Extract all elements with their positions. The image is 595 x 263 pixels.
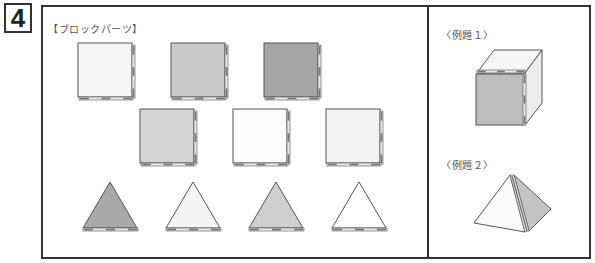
right-hinge [287,111,290,164]
bottom-hinge [265,97,319,100]
bottom-hinge [79,97,133,100]
triangle-part-3 [248,181,310,235]
triangle-part-2 [165,181,227,235]
bottom-hinge [166,228,221,231]
right-hinge [194,111,197,164]
bottom-hinge [332,228,387,231]
right-hinge [132,45,135,98]
bottom-hinge [172,97,226,100]
example2-pyramid [470,170,560,240]
cube-front-face [476,74,524,125]
square-part-row1-2 [170,42,230,102]
question-number-box: 4 [4,3,32,33]
triangle-face [332,182,386,228]
right-hinge [225,45,228,98]
cube-top-hinge [477,70,525,73]
cube-side-hinge [523,74,526,125]
square-face [326,109,380,163]
triangle-face [166,182,220,228]
triangle-part-1 [82,181,144,235]
square-part-row1-3 [263,42,323,102]
question-number: 4 [11,5,25,31]
square-face [264,43,318,97]
section-divider [427,5,429,259]
triangle-face [83,182,137,228]
right-hinge [380,111,383,164]
square-part-row2-1 [139,108,199,168]
square-face [140,109,194,163]
right-hinge [318,45,321,98]
example1-label: 〈例題１〉 [441,27,494,42]
example1-cube [470,45,550,125]
square-part-row1-1 [77,42,137,102]
block-parts-label: 【ブロックパーツ】 [48,21,143,36]
square-face [78,43,132,97]
bottom-hinge [327,163,381,166]
triangle-part-4 [331,181,393,235]
square-part-row2-2 [232,108,292,168]
triangle-face [249,182,303,228]
bottom-hinge [249,228,304,231]
bottom-hinge [83,228,138,231]
square-part-row2-3 [325,108,385,168]
square-face [233,109,287,163]
bottom-hinge [234,163,288,166]
bottom-hinge [141,163,195,166]
square-face [171,43,225,97]
